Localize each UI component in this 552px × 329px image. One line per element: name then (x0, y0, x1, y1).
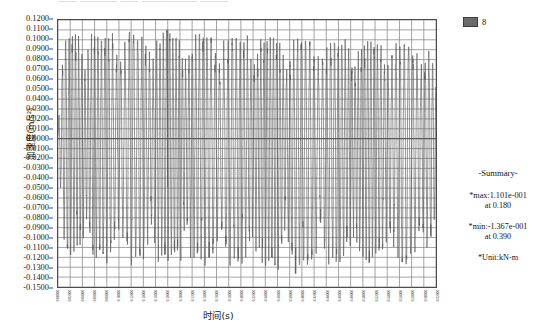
y-tick-label: 0.0600 (26, 75, 49, 83)
x-tick-label: 0.28000 (229, 290, 232, 301)
y-tick-label: 0.1100 (26, 25, 49, 33)
x-tick-label: 0.30000 (241, 290, 244, 301)
y-tick-label: -0.1100 (23, 244, 49, 252)
y-tick-mark (49, 108, 53, 109)
y-tick-label: -0.0200 (23, 154, 49, 162)
y-tick-mark (49, 268, 53, 269)
y-tick-mark (49, 88, 53, 89)
y-tick-label: 0.0100 (26, 125, 49, 133)
y-tick-label: 0.0700 (26, 65, 49, 73)
x-tick-label: 0.32000 (253, 290, 256, 301)
y-tick-mark (49, 168, 53, 169)
y-tick-label: 0.1200 (26, 15, 49, 23)
y-tick-label: -0.0700 (23, 204, 49, 212)
legend-label: 8 (482, 17, 486, 27)
clipped-title-text: —— ———— —— —————— ——— (58, 0, 228, 5)
acceleration-series (58, 20, 436, 287)
x-tick-label: 0.46000 (339, 290, 342, 301)
x-tick-label: 0.08000 (106, 290, 109, 301)
y-tick-label: -0.1000 (23, 234, 49, 242)
y-tick-label: 0.0400 (26, 95, 49, 103)
x-tick-label: 0.52000 (376, 290, 379, 301)
x-tick-label: 0.34000 (265, 290, 268, 301)
x-axis-title: 时间(s) (0, 308, 437, 322)
y-tick-label: -0.0400 (23, 174, 49, 182)
y-tick-mark (49, 48, 53, 49)
y-tick-mark (49, 148, 53, 149)
y-tick-label: -0.1500 (23, 284, 49, 292)
x-tick-label: 0.16000 (155, 290, 158, 301)
x-tick-label: 0.00000 (57, 290, 60, 301)
y-tick-mark (49, 278, 53, 279)
summary-heading: -Summary- (444, 168, 552, 178)
x-tick-label: 0.02000 (69, 290, 72, 301)
x-tick-label: 0.14000 (143, 290, 146, 301)
y-tick-label: -0.1200 (23, 254, 49, 262)
y-tick-label: -0.0300 (23, 164, 49, 172)
y-tick-label: 0.1000 (26, 35, 49, 43)
x-tick-label: 0.26000 (216, 290, 219, 301)
x-tick-label: 0.22000 (192, 290, 195, 301)
summary-panel: -Summary- *max:1.101e-001 at 0.180 *min:… (444, 168, 552, 262)
y-tick-mark (49, 248, 53, 249)
x-tick-label: 0.54000 (388, 290, 391, 301)
x-tick-label: 0.36000 (278, 290, 281, 301)
x-tick-label: 0.04000 (82, 290, 85, 301)
x-tick-label: 0.10000 (118, 290, 121, 301)
y-tick-label: -0.0800 (23, 214, 49, 222)
summary-unit: *Unit:kN-m (444, 253, 552, 262)
y-tick-mark (49, 38, 53, 39)
y-tick-mark (49, 158, 53, 159)
y-tick-mark (49, 238, 53, 239)
y-tick-mark (49, 98, 53, 99)
y-tick-mark (49, 68, 53, 69)
y-tick-mark (49, 228, 53, 229)
y-tick-mark (49, 288, 53, 289)
x-tick-label: 0.42000 (314, 290, 317, 301)
y-tick-mark (49, 188, 53, 189)
legend-swatch-icon (463, 17, 478, 27)
y-tick-mark (49, 208, 53, 209)
x-tick-label: 0.40000 (302, 290, 305, 301)
x-tick-label: 0.56000 (400, 290, 403, 301)
y-tick-label: 0.0500 (26, 85, 49, 93)
summary-max: *max:1.101e-001 at 0.180 (444, 191, 552, 210)
y-axis-tick-labels: 0.12000.11000.10000.09000.08000.07000.06… (0, 19, 53, 288)
x-axis-tick-labels: 0.000000.020000.040000.060000.080000.100… (57, 289, 437, 305)
clipped-title-strip: —— ———— —— —————— ——— (0, 0, 552, 9)
y-tick-mark (49, 258, 53, 259)
y-tick-mark (49, 128, 53, 129)
x-tick-label: 0.62000 (437, 290, 440, 301)
y-tick-label: 0.0900 (26, 45, 49, 53)
y-tick-label: 0.0000 (26, 135, 49, 143)
y-tick-label: -0.0600 (23, 194, 49, 202)
summary-min-value: *min:-1.367e-001 (444, 222, 552, 232)
y-tick-label: 0.0800 (26, 55, 49, 63)
y-tick-label: -0.1300 (23, 264, 49, 272)
x-tick-label: 0.12000 (131, 290, 134, 301)
y-tick-label: -0.0500 (23, 184, 49, 192)
y-tick-label: 0.0300 (26, 105, 49, 113)
summary-min-time: at 0.390 (444, 232, 552, 242)
summary-min: *min:-1.367e-001 at 0.390 (444, 222, 552, 241)
y-tick-mark (49, 78, 53, 79)
x-tick-label: 0.60000 (425, 290, 428, 301)
x-tick-label: 0.24000 (204, 290, 207, 301)
y-tick-label: 0.0200 (26, 115, 49, 123)
y-tick-mark (49, 198, 53, 199)
y-tick-mark (49, 118, 53, 119)
x-tick-label: 0.18000 (167, 290, 170, 301)
x-tick-label: 0.44000 (327, 290, 330, 301)
x-tick-label: 0.06000 (94, 290, 97, 301)
x-tick-label: 0.20000 (180, 290, 183, 301)
y-tick-mark (49, 19, 53, 20)
y-tick-mark (49, 28, 53, 29)
x-tick-label: 0.50000 (363, 290, 366, 301)
y-tick-mark (49, 178, 53, 179)
x-tick-label: 0.48000 (351, 290, 354, 301)
chart-legend: 8 (463, 17, 486, 27)
y-tick-label: -0.1400 (23, 274, 49, 282)
y-tick-mark (49, 218, 53, 219)
plot-area (57, 19, 437, 288)
x-tick-label: 0.38000 (290, 290, 293, 301)
